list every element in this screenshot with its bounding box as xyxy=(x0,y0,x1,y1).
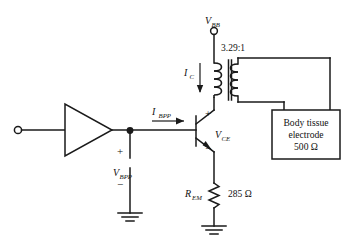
rem-label-subscript: EM xyxy=(191,194,202,201)
emitter-resistor xyxy=(209,183,219,226)
rem-label: R xyxy=(184,188,191,199)
ibpp-label: I xyxy=(151,106,156,117)
transformer-primary-winding xyxy=(214,63,222,98)
transformer xyxy=(214,58,330,110)
circuit-diagram-canvas: I BPP + − V CE V BB 3.29:1 I C xyxy=(0,0,347,244)
load-box-line2: electrode xyxy=(288,129,323,140)
turns-ratio-label: 3.29:1 xyxy=(221,43,245,53)
rem-value-label: 285 Ω xyxy=(228,189,252,199)
load-box-line3: 500 Ω xyxy=(294,141,318,152)
vbb-supply-terminal[interactable] xyxy=(211,28,218,35)
vbb-label-subscript: BB xyxy=(212,21,220,28)
ground-left xyxy=(118,213,142,221)
ic-label: I xyxy=(183,67,188,78)
ground-right xyxy=(202,226,226,234)
vce-plus-sign: + xyxy=(205,107,211,119)
schematic-svg: I BPP + − V CE V BB 3.29:1 I C xyxy=(0,0,347,244)
ibpp-label-subscript: BPP xyxy=(159,112,171,119)
ic-arrow-head xyxy=(197,85,203,93)
ibpp-arrow-head xyxy=(176,118,184,125)
amplifier-triangle xyxy=(65,104,112,156)
vbpp-label-subscript: BPP xyxy=(120,173,132,180)
vce-minus-sign: − xyxy=(205,142,211,154)
vbpp-minus-sign: − xyxy=(117,178,123,190)
input-terminal-circle[interactable] xyxy=(14,126,21,133)
load-box-line1: Body tissue xyxy=(283,117,328,128)
ic-label-subscript: C xyxy=(190,73,195,80)
vce-label-subscript: CE xyxy=(222,135,232,142)
vbpp-plus-sign: + xyxy=(117,145,123,157)
